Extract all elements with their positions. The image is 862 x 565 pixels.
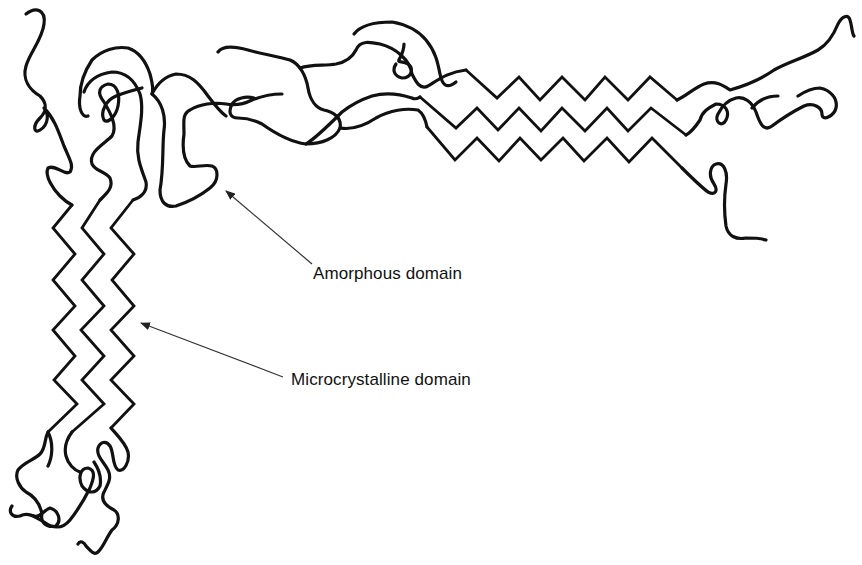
microcrystalline-domain-label: Microcrystalline domain xyxy=(291,370,471,390)
horizontal-microcrystalline-band xyxy=(420,70,686,168)
amorphous-arrow xyxy=(226,191,312,264)
amorphous-domain-label: Amorphous domain xyxy=(313,264,462,284)
vertical-microcrystalline-band xyxy=(48,200,134,432)
microcrystalline-arrow xyxy=(141,323,283,377)
